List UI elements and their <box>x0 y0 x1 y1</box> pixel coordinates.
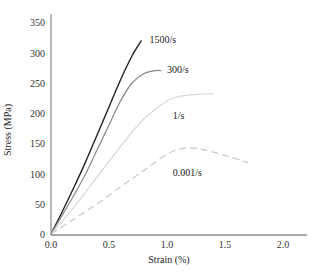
x-tick-label: 0.0 <box>45 239 58 250</box>
y-axis-label: Stress (MPa) <box>2 104 14 156</box>
x-tick-label: 1.0 <box>161 239 174 250</box>
series-label: 0.001/s <box>173 167 202 178</box>
x-tick-label: 2.0 <box>277 239 290 250</box>
y-tick-labels: 050100150200250300350 <box>30 17 45 240</box>
y-tick-label: 250 <box>30 78 45 89</box>
x-tick-label: 1.5 <box>219 239 232 250</box>
x-tick-label: 0.5 <box>103 239 116 250</box>
series-label: 1/s <box>173 110 185 121</box>
y-tick-label: 200 <box>30 108 45 119</box>
x-tick-labels: 0.00.51.01.52.0 <box>45 239 290 250</box>
x-axis-label: Strain (%) <box>148 254 189 266</box>
plot-series <box>51 40 248 234</box>
series-line-1-s <box>51 94 213 234</box>
series-labels: 1500/s300/s1/s0.001/s <box>150 34 202 177</box>
y-tick-label: 300 <box>30 48 45 59</box>
series-line-0-001-s <box>51 148 248 234</box>
stress-strain-chart: 050100150200250300350 0.00.51.01.52.0 15… <box>0 0 320 277</box>
y-tick-label: 150 <box>30 138 45 149</box>
series-label: 1500/s <box>150 34 177 45</box>
y-tick-label: 100 <box>30 169 45 180</box>
y-tick-label: 50 <box>35 199 45 210</box>
series-label: 300/s <box>167 64 189 75</box>
series-line-300-s <box>51 70 161 234</box>
y-tick-label: 350 <box>30 17 45 28</box>
